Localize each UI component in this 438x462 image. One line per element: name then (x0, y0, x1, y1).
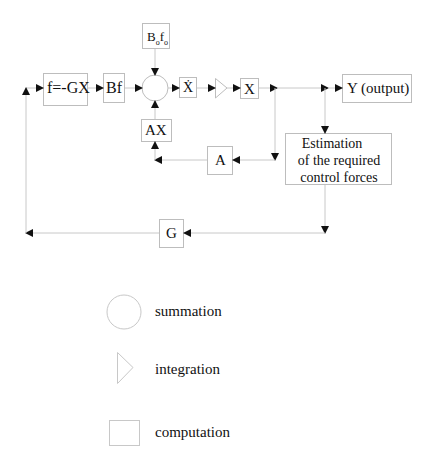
estimation-line-2: of the required (286, 152, 392, 169)
legend-summation-label: summation (155, 303, 222, 320)
system-matrix-label: A (215, 153, 226, 168)
input-matrix-label: Bf (106, 80, 122, 96)
estimation-line-3: control forces (286, 169, 392, 186)
system-term-label: AX (145, 123, 167, 138)
legend-circle-icon (107, 295, 141, 329)
state-derivative-label: Ẋ (183, 81, 193, 95)
integrator-triangle (216, 79, 228, 99)
legend-computation-label: computation (155, 424, 230, 441)
legend-triangle-icon (118, 353, 134, 384)
external-input-b: B (147, 29, 156, 44)
estimation-label: Estimation of the required control force… (286, 135, 392, 186)
legend-square-icon (110, 421, 140, 446)
block-diagram-canvas (0, 0, 438, 462)
gain-label: G (166, 226, 177, 241)
state-label: X (244, 82, 255, 97)
legend-integration-label: integration (155, 361, 220, 378)
output-label: Y (output) (347, 81, 409, 96)
estimation-line-1: Estimation (286, 135, 392, 152)
feedback-law-label: f=-GX (47, 80, 90, 96)
external-input-label: Bofo (147, 30, 168, 47)
summation-node (142, 75, 168, 101)
external-input-f-sub: o (164, 38, 168, 47)
